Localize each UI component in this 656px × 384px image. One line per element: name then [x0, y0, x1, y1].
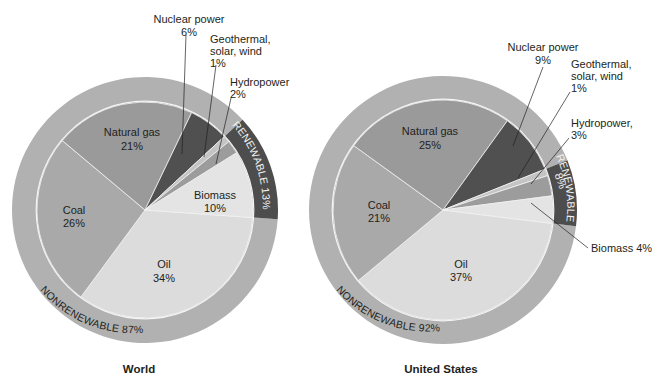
world-natural-gas-pct: 21%	[121, 140, 143, 152]
us-nuclear-label: Nuclear power	[508, 41, 579, 53]
us-hydro-pct: 3%	[571, 129, 587, 141]
us-coal-label: Coal	[368, 199, 391, 211]
world-biomass-pct: 10%	[204, 202, 226, 214]
world-nuclear-label: Nuclear power	[154, 13, 225, 25]
us-geothermal-label-1: Geothermal,	[571, 58, 632, 70]
world-oil-label: Oil	[157, 258, 170, 270]
world-title: World	[123, 363, 155, 375]
us-title: United States	[404, 363, 478, 375]
us-nuclear-pct: 9%	[535, 54, 551, 66]
energy-pie-charts: Natural gas 21% Coal 26% Oil 34% Biomass…	[0, 0, 656, 384]
world-geothermal-label-2: solar, wind	[210, 45, 262, 57]
world-geothermal-label-1: Geothermal,	[210, 33, 271, 45]
us-natural-gas-label: Natural gas	[402, 125, 459, 137]
world-coal-pct: 26%	[63, 217, 85, 229]
us-oil-pct: 37%	[450, 271, 472, 283]
us-biomass-label: Biomass 4%	[591, 242, 652, 254]
us-geothermal-label-2: solar, wind	[571, 70, 623, 82]
us-oil-label: Oil	[454, 258, 467, 270]
us-hydro-label: Hydropower,	[571, 117, 633, 129]
world-hydro-label: Hydropower	[230, 76, 290, 88]
world-hydro-pct: 2%	[230, 88, 246, 100]
us-coal-pct: 21%	[368, 212, 390, 224]
world-biomass-label: Biomass	[194, 189, 237, 201]
world-oil-pct: 34%	[153, 272, 175, 284]
world-natural-gas-label: Natural gas	[104, 126, 161, 138]
world-coal-label: Coal	[63, 204, 86, 216]
world-geothermal-pct: 1%	[210, 57, 226, 69]
us-natural-gas-pct: 25%	[419, 139, 441, 151]
us-geothermal-pct: 1%	[571, 82, 587, 94]
world-nuclear-pct: 6%	[181, 26, 197, 38]
